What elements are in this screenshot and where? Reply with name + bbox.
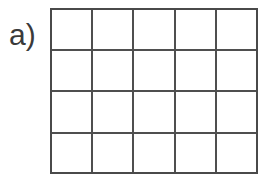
grid-cell bbox=[133, 91, 175, 133]
figure-panel: a) bbox=[0, 0, 273, 185]
grid-cell bbox=[175, 133, 217, 175]
grid-cell bbox=[92, 133, 134, 175]
grid-cell bbox=[175, 50, 217, 92]
grid-cell bbox=[216, 91, 258, 133]
grid-cell bbox=[50, 133, 92, 175]
grid-cell bbox=[50, 50, 92, 92]
grid-cell bbox=[175, 91, 217, 133]
grid-cell bbox=[133, 133, 175, 175]
grid-cell bbox=[175, 8, 217, 50]
grid-cell bbox=[133, 50, 175, 92]
grid-cell bbox=[50, 91, 92, 133]
grid-cell bbox=[216, 50, 258, 92]
grid-cell bbox=[216, 8, 258, 50]
grid-cell bbox=[216, 133, 258, 175]
panel-label: a) bbox=[9, 17, 49, 53]
grid-svg bbox=[50, 8, 258, 174]
grid-figure bbox=[50, 8, 258, 174]
grid-cell bbox=[92, 8, 134, 50]
grid-cell bbox=[133, 8, 175, 50]
grid-cell bbox=[50, 8, 92, 50]
grid-cell bbox=[92, 91, 134, 133]
grid-cell bbox=[92, 50, 134, 92]
